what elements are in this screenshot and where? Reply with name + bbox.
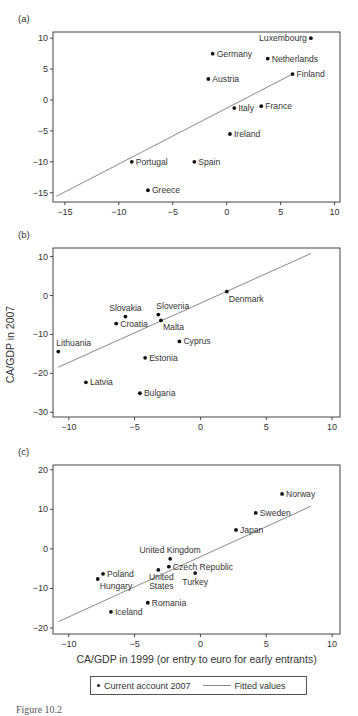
legend: Current account 2007 Fitted values [90, 676, 307, 695]
x-tick-label: −15 [57, 207, 72, 217]
data-point [56, 350, 60, 354]
data-point [177, 340, 181, 344]
panel-label: (b) [18, 229, 30, 240]
data-point [232, 106, 236, 110]
x-tick-label: 5 [278, 207, 283, 217]
data-point [234, 528, 238, 532]
x-axis-label: CA/GDP in 1999 (or entry to euro for ear… [76, 653, 316, 665]
panel-label: (c) [18, 446, 29, 457]
data-point [156, 313, 160, 317]
x-tick-label: −10 [61, 639, 76, 649]
legend-line-icon [203, 685, 231, 686]
point-label: Greece [152, 185, 180, 195]
data-point [168, 557, 172, 561]
data-point [211, 52, 215, 56]
data-point [167, 565, 171, 569]
data-point [280, 492, 284, 496]
x-tick-label: 0 [198, 422, 203, 432]
point-label: Japan [240, 525, 264, 535]
point-label: Turkey [182, 577, 209, 587]
x-tick-label: 5 [264, 639, 269, 649]
x-tick-label: −10 [61, 422, 76, 432]
point-label: Germany [217, 49, 253, 59]
data-point [228, 132, 232, 136]
panel-0: (a)−15−10−50510−15−10−50510LuxembourgGer… [18, 13, 340, 217]
y-tick-label: −10 [33, 583, 48, 593]
data-point [291, 72, 295, 76]
y-tick-label: 0 [43, 95, 48, 105]
panel-label: (a) [18, 13, 30, 24]
point-label: Iceland [115, 607, 143, 617]
data-point [84, 380, 88, 384]
y-tick-label: −10 [33, 157, 48, 167]
panel-1: (b)−10−50510−30−20−10010DenmarkSlovakiaS… [4, 229, 340, 432]
panel-2: (c)−10−50510−20−1001020NorwaySwedenJapan… [18, 446, 340, 665]
y-tick-label: 0 [43, 544, 48, 554]
point-label: States [149, 581, 173, 591]
x-tick-label: −5 [129, 422, 139, 432]
point-label: Slovakia [109, 303, 142, 313]
x-tick-label: 0 [224, 207, 229, 217]
y-tick-label: 0 [43, 291, 48, 301]
x-tick-label: 10 [327, 639, 337, 649]
point-label: Cyprus [183, 336, 210, 346]
legend-line-label: Fitted values [235, 681, 286, 691]
point-label: Lithuania [56, 338, 91, 348]
point-label: Latvia [90, 377, 113, 387]
legend-points-label: Current account 2007 [104, 681, 191, 691]
data-point [259, 104, 263, 108]
data-point [206, 77, 210, 81]
point-label: Hungary [100, 581, 133, 591]
y-tick-label: −10 [33, 329, 48, 339]
data-point [138, 391, 142, 395]
y-tick-label: 20 [38, 465, 48, 475]
point-label: Portugal [136, 157, 168, 167]
y-tick-label: −30 [33, 407, 48, 417]
point-label: Netherlands [272, 54, 318, 64]
x-tick-label: −10 [111, 207, 126, 217]
point-label: Finland [297, 69, 325, 79]
figure-caption: Figure 10.2 [16, 704, 62, 715]
data-point [146, 601, 150, 605]
x-tick-label: 5 [264, 422, 269, 432]
point-label: Poland [107, 569, 134, 579]
y-tick-label: 10 [38, 504, 48, 514]
x-tick-label: −5 [168, 207, 178, 217]
point-label: Ireland [234, 129, 260, 139]
point-label: Estonia [149, 353, 178, 363]
x-tick-label: 0 [198, 639, 203, 649]
y-tick-label: 5 [43, 64, 48, 74]
point-label: Norway [286, 489, 316, 499]
data-point [192, 160, 196, 164]
plot-frame [53, 248, 340, 417]
y-tick-label: −5 [38, 126, 48, 136]
data-point [130, 160, 134, 164]
point-label: Slovenia [156, 301, 189, 311]
point-label: Spain [198, 157, 220, 167]
y-tick-label: −20 [33, 623, 48, 633]
point-label: Italy [238, 103, 254, 113]
y-tick-label: 10 [38, 33, 48, 43]
data-point [114, 322, 118, 326]
point-label: Luxembourg [259, 33, 307, 43]
point-label: Czech Republic [173, 562, 234, 572]
data-point [266, 57, 270, 61]
legend-dot-icon [97, 684, 100, 687]
y-tick-label: −20 [33, 368, 48, 378]
data-point [193, 571, 197, 575]
y-tick-label: −15 [33, 188, 48, 198]
point-label: United Kingdom [140, 545, 201, 555]
point-label: Croatia [120, 319, 148, 329]
point-label: France [265, 101, 292, 111]
data-point [309, 36, 313, 40]
data-point [146, 188, 150, 192]
point-label: Romania [152, 598, 187, 608]
y-axis-label: CA/GDP in 2007 [4, 306, 16, 384]
point-label: Sweden [260, 508, 291, 518]
data-point [101, 572, 105, 576]
data-point [143, 356, 147, 360]
point-label: Austria [212, 74, 239, 84]
y-tick-label: 10 [38, 252, 48, 262]
